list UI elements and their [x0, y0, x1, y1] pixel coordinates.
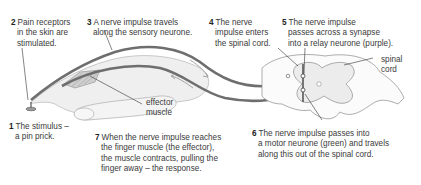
label-step-2: 2Pain receptors in the skin are stimulat… — [11, 18, 70, 49]
label-spinal-cord: spinal cord — [381, 55, 402, 76]
label-step-1: 1The stimulus – a pin prick. — [9, 122, 69, 143]
label-step-4: 4The nerve impulse enters the spinal cor… — [209, 18, 271, 49]
central-canal — [317, 82, 321, 86]
label-step-7: 7When the nerve impulse reaches the fing… — [95, 133, 221, 174]
label-step-6: 6The nerve impulse passes into a motor n… — [252, 129, 389, 160]
ganglion — [286, 74, 290, 78]
reflex-arc-diagram: 2Pain receptors in the skin are stimulat… — [0, 0, 421, 185]
label-step-5: 5The nerve impulse passes across a synap… — [282, 18, 393, 49]
label-effector-muscle: effector muscle — [146, 98, 173, 119]
hand-illustration — [30, 56, 209, 120]
label-step-3: 3A nerve impulse travels along the senso… — [87, 18, 192, 39]
